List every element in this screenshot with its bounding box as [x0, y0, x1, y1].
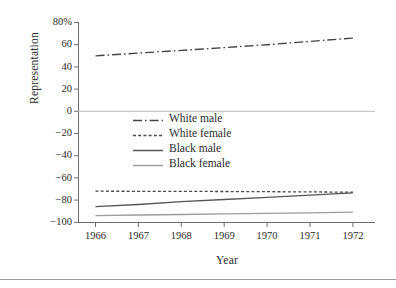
legend-item-white-female: White female	[133, 125, 231, 140]
series-line-black-male	[96, 193, 353, 207]
legend-item-black-female: Black female	[133, 155, 231, 170]
x-tick-label: 1968	[158, 231, 204, 242]
legend-item-white-male: White male	[133, 110, 231, 125]
y-axis-ticks	[74, 23, 79, 223]
footer-divider	[0, 279, 396, 280]
x-axis-ticks	[96, 223, 353, 228]
y-tick-label: −60	[20, 173, 72, 184]
legend-label: Black male	[169, 142, 221, 154]
x-tick-label: 1969	[201, 231, 247, 242]
series-line-black-female	[96, 212, 353, 215]
series-line-white-female	[96, 191, 353, 192]
legend-item-black-male: Black male	[133, 140, 231, 155]
x-tick-label: 1967	[115, 231, 161, 242]
solid-light-line-icon	[133, 157, 163, 168]
y-axis-title: Representation	[28, 0, 40, 148]
x-tick-label: 1971	[287, 231, 333, 242]
series-line-white-male	[96, 38, 353, 56]
legend-label: White male	[169, 112, 222, 124]
x-tick-label: 1966	[73, 231, 119, 242]
legend: White male White female Black male	[133, 110, 231, 170]
y-tick-label: −40	[20, 150, 72, 161]
x-tick-label: 1972	[330, 231, 376, 242]
solid-line-icon	[133, 142, 163, 153]
y-tick-label: −80	[20, 195, 72, 206]
legend-label: Black female	[169, 157, 230, 169]
x-tick-label: 1970	[244, 231, 290, 242]
dotted-line-icon	[133, 127, 163, 138]
x-axis-title: Year	[78, 254, 376, 266]
y-tick-label: −100	[20, 217, 72, 228]
figure: 80% 60 40 20 0 −20 −40 −60 −80 −100 1966…	[0, 0, 396, 288]
legend-label: White female	[169, 127, 231, 139]
dashdot-line-icon	[133, 112, 163, 123]
